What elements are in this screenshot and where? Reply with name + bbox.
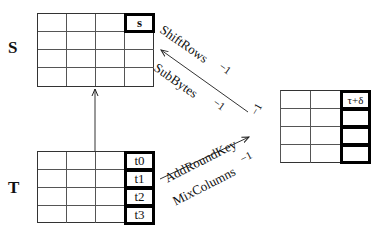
arrows-layer: [0, 0, 386, 239]
